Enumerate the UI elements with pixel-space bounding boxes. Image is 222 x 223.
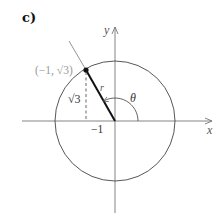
radius-label: r [100,82,104,93]
point-marker [83,67,88,72]
panel-label: c) [22,10,36,25]
height-label: √3 [68,92,81,106]
unit-circle-diagram: c) y x (−1, √3) √3 r θ −1 [0,0,222,223]
point-label: (−1, √3) [35,64,73,77]
angle-label: θ [130,91,136,105]
y-axis-label: y [103,23,110,37]
radius-segment [86,70,115,121]
x-axis-label: x [206,123,213,137]
x-tick-label: −1 [91,123,103,135]
